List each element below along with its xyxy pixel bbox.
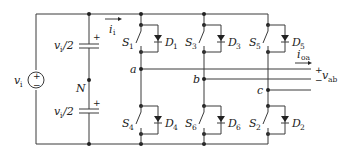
- s2-sub: 2: [256, 123, 261, 132]
- inverter-circuit: + − v i + + v i /2 v i /2 N i i: [0, 0, 353, 155]
- output-current-label: i: [297, 48, 301, 61]
- cap2-plus: +: [93, 98, 101, 108]
- leg-a-upper: S 1 D 1: [122, 12, 178, 54]
- vab-sub: ab: [328, 75, 337, 84]
- lower-switches: S 4 D 4 S 6 D 6 S 2 D 2: [122, 104, 305, 146]
- input-current: i i: [105, 17, 122, 37]
- d3-sub: 3: [236, 42, 241, 51]
- phase-outputs: a b c i oa + − v ab: [130, 48, 337, 106]
- leg-b-lower: S 6 D 6: [185, 104, 241, 146]
- node-a-label: a: [130, 63, 137, 76]
- s6-sub: 6: [192, 123, 197, 132]
- upper-switches: S 1 D 1 S 3 D 3 S 5 D 5: [122, 12, 305, 54]
- input-current-sub: i: [113, 28, 116, 37]
- cap2-suffix: /2: [62, 105, 74, 118]
- d6-sub: 6: [236, 123, 241, 132]
- input-current-label: i: [109, 23, 113, 36]
- s1-sub: 1: [129, 42, 134, 51]
- output-current-sub: oa: [301, 53, 311, 62]
- s4-sub: 4: [129, 123, 134, 132]
- d1-sub: 1: [173, 42, 178, 51]
- capacitor-bank: + + v i /2 v i /2 N: [54, 12, 101, 146]
- neutral-label: N: [75, 82, 86, 95]
- d5-sub: 5: [300, 42, 305, 51]
- node-b-label: b: [193, 73, 200, 86]
- leg-c-lower: S 2 D 2: [249, 104, 305, 144]
- s3-sub: 3: [192, 42, 197, 51]
- d2-sub: 2: [300, 123, 305, 132]
- leg-b-upper: S 3 D 3: [185, 12, 241, 54]
- cap1-suffix: /2: [62, 39, 74, 52]
- s5-sub: 5: [256, 42, 261, 51]
- cap1-plus: +: [93, 32, 101, 42]
- node-c-label: c: [257, 84, 263, 97]
- leg-a-lower: S 4 D 4: [122, 104, 178, 146]
- d4-sub: 4: [173, 123, 178, 132]
- dc-source: + − v i: [14, 71, 44, 90]
- source-minus: −: [33, 80, 41, 90]
- source-sub: i: [20, 80, 23, 89]
